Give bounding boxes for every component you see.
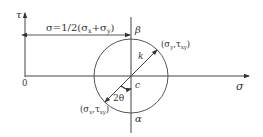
angle-arc: [121, 86, 131, 89]
tau-axis-label: τ: [16, 9, 22, 20]
point-upper-label: (σy,τxy): [161, 39, 190, 51]
center-label: c: [135, 80, 140, 90]
radius-upper: [131, 50, 157, 76]
point-lower-label: (σx,τxy): [80, 104, 109, 116]
beta-label: β: [134, 24, 141, 35]
angle-label: 2θ: [113, 93, 124, 103]
alpha-label: α: [135, 113, 142, 124]
radius-label: k: [138, 51, 143, 61]
origin-label: 0: [22, 78, 27, 88]
center-annotation: σ=1/2(σx+σy): [46, 22, 115, 35]
sigma-axis-label: σ: [236, 80, 244, 93]
mohr-circle-diagram: τ σ 0 σ=1/2(σx+σy) β α c k 2θ (σy,τxy) (…: [0, 0, 263, 137]
